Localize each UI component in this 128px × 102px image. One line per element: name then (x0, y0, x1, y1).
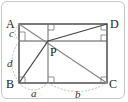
geometry-diagram: A D B C P c d a b (0, 0, 128, 102)
label-b-point: B (6, 77, 14, 91)
label-c-length: c (9, 27, 14, 39)
right-angle-mark-left (19, 32, 25, 41)
label-d-point: D (110, 17, 119, 31)
label-c-point: C (109, 77, 117, 91)
right-angle-mark-right (101, 35, 107, 41)
right-angle-mark-bottom (48, 77, 54, 83)
segment-pd (48, 24, 107, 41)
right-angle-mark-top (48, 24, 54, 30)
segment-ac (19, 24, 107, 83)
label-b-length: b (75, 88, 81, 100)
label-p-point: P (50, 45, 57, 59)
measure-arcs (12, 24, 107, 92)
label-d-length: d (7, 57, 13, 69)
label-a-length: a (31, 87, 37, 99)
